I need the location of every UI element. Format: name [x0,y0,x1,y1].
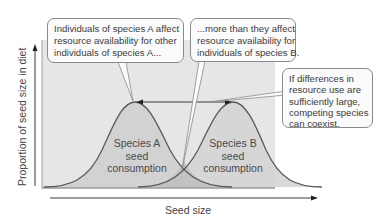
curve-label-text: seed [196,150,270,163]
callout-text: individuals of species B. [197,47,289,59]
callout-coexistence: If differences in resource use are suffi… [282,68,373,128]
species-a-label: Species A seed consumption [100,137,174,175]
callout-interspecific: ...more than they affect resource availa… [190,18,296,62]
y-axis-arrow [33,44,38,186]
curve-label-text: seed [100,150,174,163]
curve-label-text: Species B [196,137,270,150]
curve-label-text: consumption [100,162,174,175]
callout-text: resource availability for other [54,35,177,47]
callout-text: individuals of species A... [54,47,177,59]
callout-text: sufficiently large, [289,96,366,107]
niche-partitioning-diagram: Individuals of species A affect resource… [0,0,384,220]
curve-label-text: consumption [196,162,270,175]
callout-text: can coexist. [289,118,366,129]
callout-text: ...more than they affect [197,23,289,35]
species-b-label: Species B seed consumption [196,137,270,175]
callout-text: Individuals of species A affect [54,23,177,35]
callout-text: competing species [289,107,366,118]
y-axis-label: Proportion of seed size in diet [16,48,28,186]
callout-intraspecific: Individuals of species A affect resource… [47,18,184,63]
callout-text: resource use are [289,84,366,95]
curve-label-text: Species A [100,137,174,150]
x-axis-arrow [50,196,318,201]
x-axis-label: Seed size [165,204,211,216]
callout-text: If differences in [289,73,366,84]
callout-text: resource availability for [197,35,289,47]
